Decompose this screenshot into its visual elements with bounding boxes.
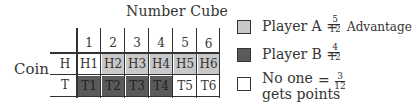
grid-line [50,74,220,75]
cell-label: T6 [201,79,217,93]
legend-label-gets-points: gets points [262,86,340,102]
fraction-player-b: 4 12 [329,43,341,62]
cell-label: H6 [199,57,217,71]
grid-line [124,28,125,98]
denominator: 12 [329,52,340,62]
denominator: 12 [329,24,340,34]
swatch-player-b [237,48,251,62]
col-header-5: 5 [174,33,196,53]
cell-label: H2 [104,57,122,71]
cell-T1: T1 [78,76,100,97]
row-header-H: H [54,54,76,74]
cell-T5: T5 [174,76,196,97]
numerator: 3 [337,71,343,81]
row-header-T: T [54,75,76,95]
cell-H6: H6 [198,54,219,75]
grid-line [76,28,78,98]
grid-line [172,28,173,98]
row-axis-label: Coin [14,60,49,78]
legend-label-player-b: Player B = [262,46,338,62]
advantage-note: Advantage [347,20,412,34]
swatch-no-one [237,77,251,91]
col-header-3: 3 [126,33,148,53]
cell-label: H1 [80,57,98,71]
cell-H5: H5 [174,54,196,75]
legend-label-player-a: Player A = [262,18,338,34]
table-title: Number Cube [126,3,228,19]
cell-label: T2 [105,79,121,93]
swatch-player-a [237,20,251,34]
col-header-6: 6 [198,34,219,54]
cell-H3: H3 [126,54,148,75]
numerator: 5 [332,14,338,24]
cell-label: T4 [153,79,169,93]
cell-label: H4 [152,57,170,71]
cell-T4: T4 [150,76,172,97]
cell-T2: T2 [102,76,124,97]
col-header-2: 2 [102,33,124,53]
cell-label: T1 [81,79,97,93]
cell-label: T5 [177,79,193,93]
cell-label: H5 [176,57,194,71]
col-header-4: 4 [150,33,172,53]
grid-line [100,28,101,98]
legend-label-no-one: No one [262,70,313,86]
cell-T3: T3 [126,76,148,97]
cell-H2: H2 [102,54,124,75]
grid-line [196,28,197,98]
cell-H1: H1 [78,54,100,75]
denominator: 12 [334,81,345,91]
numerator: 4 [332,42,338,52]
cell-label: T3 [129,79,145,93]
col-header-1: 1 [78,33,100,53]
cell-T6: T6 [198,76,219,97]
grid-line [50,52,220,54]
grid-line [219,28,220,98]
grid-line [50,96,220,97]
grid-line [148,28,149,98]
fraction-player-a: 5 12 [329,15,341,34]
cell-H4: H4 [150,54,172,75]
fraction-no-one: 3 12 [334,72,346,91]
cell-label: H3 [128,57,146,71]
